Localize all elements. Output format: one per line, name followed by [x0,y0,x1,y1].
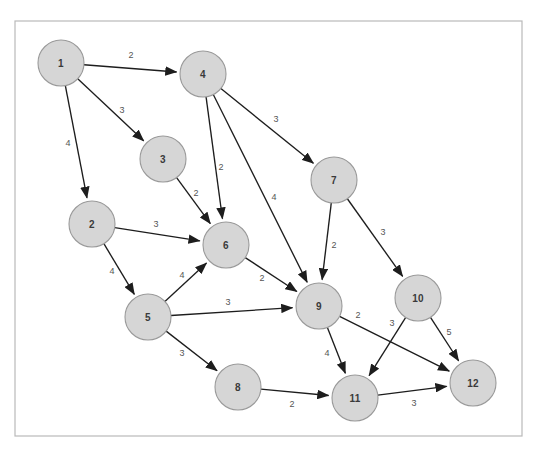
edge-weight-label: 3 [380,227,385,237]
edge-weight-label: 3 [273,114,278,124]
edge-weight-label: 4 [109,266,114,276]
edge-weight-label: 2 [289,399,294,409]
edge-weight-label: 4 [324,348,329,358]
graph-node-11[interactable]: 11 [332,375,378,421]
graph-node-6[interactable]: 6 [203,222,249,268]
graph-node-1[interactable]: 1 [38,40,84,86]
graph-node-5[interactable]: 5 [125,294,171,340]
node-label: 6 [223,240,229,251]
edge-weight-label: 4 [179,270,184,280]
node-label: 2 [89,219,95,230]
graph-node-10[interactable]: 10 [395,275,441,321]
edge-weight-label: 3 [389,318,394,328]
graph-node-4[interactable]: 4 [180,51,226,97]
edge-weight-label: 2 [331,240,336,250]
edge-weight-label: 5 [446,327,451,337]
edge-weight-label: 3 [119,105,124,115]
edge-weight-label: 4 [65,138,70,148]
edge-weight-label: 3 [225,297,230,307]
edge-weight-label: 3 [411,398,416,408]
edge-weight-label: 3 [179,348,184,358]
node-label: 3 [160,154,166,165]
node-label: 11 [350,393,361,404]
graph-node-3[interactable]: 3 [140,136,186,182]
node-label: 12 [467,378,479,389]
graph-node-7[interactable]: 7 [311,157,357,203]
edge-weight-label: 2 [259,273,264,283]
edge-weight-label: 3 [153,219,158,229]
node-label: 4 [200,69,206,80]
graph-svg: 234243234433223243523 123456789101112 [0,0,535,452]
edge-weight-label: 2 [193,188,198,198]
node-label: 1 [58,58,64,69]
graph-node-8[interactable]: 8 [215,364,261,410]
graph-node-2[interactable]: 2 [69,201,115,247]
edge-weight-label: 2 [355,310,360,320]
edge-weight-label: 2 [128,50,133,60]
node-label: 10 [412,293,424,304]
edge-weight-label: 4 [271,192,276,202]
node-label: 8 [235,382,241,393]
diagram-canvas: 234243234433223243523 123456789101112 [0,0,535,452]
graph-node-12[interactable]: 12 [450,360,496,406]
edge-weight-label: 2 [218,162,223,172]
node-label: 5 [145,312,151,323]
node-label: 9 [316,301,322,312]
node-label: 7 [331,175,337,186]
graph-node-9[interactable]: 9 [296,283,342,329]
